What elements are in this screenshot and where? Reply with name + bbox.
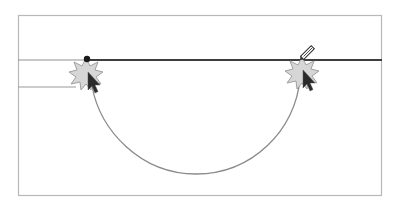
anchor-point[interactable] (84, 56, 90, 62)
artboard-frame (19, 16, 382, 196)
diagram-canvas (0, 0, 398, 209)
